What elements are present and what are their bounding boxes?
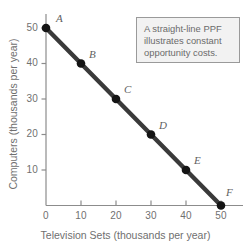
point-label-f: F: [226, 186, 233, 198]
y-tick-label-40: 40: [20, 57, 38, 68]
y-tick-label-20: 20: [20, 128, 38, 139]
data-point-d[interactable]: [147, 130, 156, 139]
x-tick-label-20: 20: [106, 210, 126, 221]
data-point-f[interactable]: [217, 201, 226, 210]
x-tick-label-30: 30: [141, 210, 161, 221]
y-tick-label-50: 50: [20, 22, 38, 33]
x-tick-label-40: 40: [176, 210, 196, 221]
x-axis-title: Television Sets (thousands per year): [0, 229, 251, 241]
point-label-e: E: [194, 154, 201, 166]
y-tick-label-10: 10: [20, 164, 38, 175]
ppf-callout-box: A straight-line PPF illustrates constant…: [136, 17, 240, 63]
callout-line-2: illustrates constant: [144, 35, 233, 47]
callout-line-3: opportunity costs.: [144, 47, 233, 59]
x-tick-label-50: 50: [211, 210, 231, 221]
y-tick-label-30: 30: [20, 93, 38, 104]
y-axis-title: Computers (thousands per year): [7, 29, 19, 199]
point-label-a: A: [56, 12, 63, 24]
point-label-c: C: [124, 83, 131, 95]
point-label-d: D: [159, 119, 167, 131]
data-point-b[interactable]: [77, 59, 86, 68]
data-point-c[interactable]: [112, 95, 121, 104]
callout-line-1: A straight-line PPF: [144, 23, 233, 35]
x-tick-label-0: 0: [36, 210, 56, 221]
point-label-b: B: [89, 48, 96, 60]
data-point-e[interactable]: [182, 166, 191, 175]
ppf-chart: 50 40 30 20 10 0 10 20 30 40 50 A B C D …: [0, 0, 251, 245]
x-tick-label-10: 10: [71, 210, 91, 221]
data-point-a[interactable]: [42, 24, 51, 33]
